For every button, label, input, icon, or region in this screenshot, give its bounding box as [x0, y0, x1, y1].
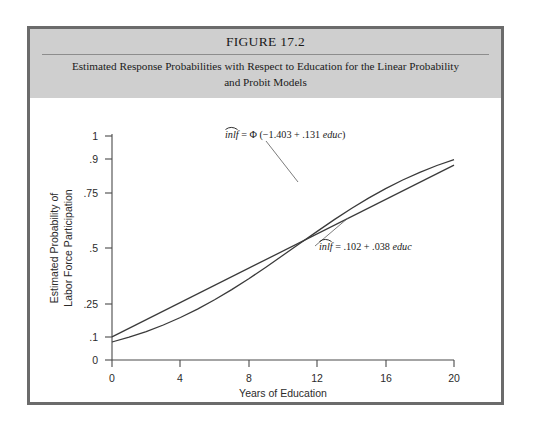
- x-axis-ticks: [112, 360, 454, 367]
- figure-number-label: FIGURE 17.2: [30, 34, 501, 50]
- y-tick-label-1: 1: [92, 130, 98, 142]
- header-divider-rule: [42, 54, 489, 55]
- lpm-equation-annotation: inlf = .102 + .038 educ: [319, 239, 412, 252]
- y-tick-label-0-1: .1: [89, 331, 98, 343]
- figure-caption-line-2: and Probit Models: [48, 74, 483, 90]
- x-tick-label-12: 12: [311, 372, 323, 384]
- probit-eq-close: ): [342, 129, 345, 141]
- probit-equation-annotation: inlf = Φ (−1.403 + .131 educ): [225, 127, 345, 141]
- figure-frame: FIGURE 17.2 Estimated Response Probabili…: [27, 26, 504, 405]
- svg-text:inlf = Φ (−1.403 + .131 educ): inlf = Φ (−1.403 + .131 educ): [225, 129, 345, 141]
- probit-eq-body: = Φ (−1.403 + .131: [239, 129, 323, 141]
- plot-area: 1 .9 .75 .5 .25 .1 0 0 4: [30, 98, 501, 402]
- lpm-eq-body: = .102 + .038: [333, 241, 393, 252]
- y-tick-label-0-25: .25: [83, 298, 98, 310]
- x-tick-label-4: 4: [177, 372, 183, 384]
- lpm-eq-var: inlf: [319, 241, 334, 252]
- y-tick-label-0: 0: [92, 354, 98, 366]
- x-axis-title: Years of Education: [239, 387, 327, 399]
- y-axis-title-line-1: Estimated Probability of: [48, 193, 60, 303]
- probit-leader-line: [266, 141, 298, 182]
- x-tick-label-8: 8: [246, 372, 252, 384]
- figure-caption-line-1: Estimated Response Probabilities with Re…: [48, 58, 483, 74]
- svg-text:inlf = .102 + .038 educ: inlf = .102 + .038 educ: [319, 241, 412, 252]
- y-tick-label-0-9: .9: [89, 153, 98, 165]
- y-tick-label-0-5: .5: [89, 242, 98, 254]
- lpm-eq-educ: educ: [392, 241, 412, 252]
- chart-svg: 1 .9 .75 .5 .25 .1 0 0 4: [30, 98, 501, 402]
- probit-eq-var: inlf: [225, 129, 240, 140]
- figure-header-band: FIGURE 17.2 Estimated Response Probabili…: [30, 29, 501, 98]
- figure-caption: Estimated Response Probabilities with Re…: [48, 58, 483, 90]
- y-tick-label-0-75: .75: [83, 187, 98, 199]
- x-tick-label-16: 16: [380, 372, 392, 384]
- x-tick-label-0: 0: [109, 372, 115, 384]
- y-axis-ticks: [105, 136, 112, 360]
- figure-root: FIGURE 17.2 Estimated Response Probabili…: [0, 0, 536, 434]
- y-axis-title-line-2: Labor Force Participation: [62, 189, 74, 306]
- x-tick-label-20: 20: [448, 372, 460, 384]
- probit-eq-educ: educ: [323, 129, 343, 140]
